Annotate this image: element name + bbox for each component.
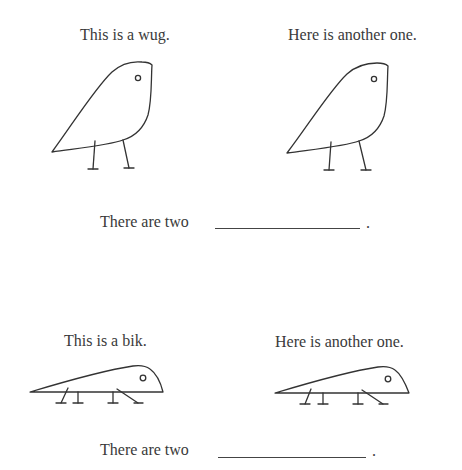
bik-eye — [140, 375, 146, 381]
wug-eye — [371, 76, 376, 81]
bik-left-illustration — [30, 366, 163, 403]
wug-body-outline — [287, 63, 388, 153]
bik-prompt-text: There are two — [100, 442, 189, 458]
wug-test-page: This is a wug. Here is another one. Ther… — [0, 0, 462, 470]
wug-leg — [359, 141, 366, 170]
wug-right-illustration — [287, 63, 388, 170]
wug-eye — [135, 75, 140, 80]
bik-right-illustration — [275, 367, 409, 404]
bik-leg — [305, 389, 311, 404]
wug-leg — [329, 142, 331, 170]
bik-left-caption: This is a bik. — [64, 333, 147, 349]
bik-answer-blank[interactable] — [218, 457, 366, 458]
bik-leg — [117, 389, 138, 403]
bik-leg — [61, 388, 68, 403]
bik-prompt-period: . — [372, 443, 376, 459]
wug-prompt-period: . — [366, 215, 370, 231]
wug-left-illustration — [52, 62, 152, 169]
wug-body-outline — [52, 62, 152, 152]
wug-answer-blank[interactable] — [215, 228, 360, 229]
wug-right-caption: Here is another one. — [288, 27, 417, 43]
bik-eye — [385, 376, 391, 382]
creature-drawings — [0, 0, 462, 470]
wug-leg — [123, 140, 129, 168]
wug-leg — [93, 141, 95, 169]
bik-body-outline — [275, 367, 409, 393]
bik-right-caption: Here is another one. — [275, 334, 404, 350]
wug-prompt-text: There are two — [100, 214, 189, 230]
bik-leg — [362, 390, 383, 404]
bik-body-outline — [30, 366, 163, 392]
wug-left-caption: This is a wug. — [80, 27, 170, 43]
